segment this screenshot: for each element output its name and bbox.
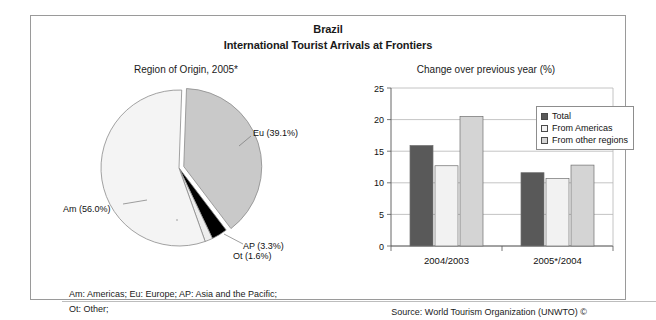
- pie-label-am: Am (56.0%): [63, 204, 111, 214]
- pie-label-ot: Ot (1.6%): [233, 251, 272, 261]
- source-note: Source: World Tourism Organization (UNWT…: [391, 307, 587, 317]
- pie-slices: [101, 89, 262, 246]
- ytick-label-10: 10: [374, 178, 384, 188]
- legend-label: Total: [552, 110, 571, 122]
- bar-from-other-regions-1: [571, 165, 594, 246]
- legend-item-total: Total: [541, 110, 628, 122]
- bar-from-americas-1: [546, 178, 569, 246]
- legend-swatch-icon: [541, 125, 548, 132]
- bar-chart-y-tick-labels: 0510152025: [374, 84, 384, 252]
- ytick-label-15: 15: [374, 147, 384, 157]
- figure-title: Brazil: [31, 23, 625, 35]
- footnote-abbreviations-line2: Ot: Other;: [69, 304, 109, 314]
- ytick-label-25: 25: [374, 84, 384, 94]
- pie-center-mark: [176, 219, 178, 221]
- legend-item-from-other-regions: From other regions: [541, 134, 628, 146]
- xtick-label-1: 2005*/2004: [533, 255, 582, 266]
- bar-total-1: [521, 173, 544, 246]
- pie-chart-svg: [61, 76, 321, 261]
- bar-chart-legend: TotalFrom AmericasFrom other regions: [536, 106, 634, 150]
- ytick-label-0: 0: [379, 242, 384, 252]
- bar-from-other-regions-0: [460, 116, 483, 246]
- pie-label-ap: AP (3.3%): [243, 241, 284, 251]
- footer-divider: [62, 301, 656, 302]
- pie-label-eu: Eu (39.1%): [253, 128, 298, 138]
- bar-from-americas-0: [435, 166, 458, 246]
- legend-label: From Americas: [552, 122, 613, 134]
- figure-subtitle: International Tourist Arrivals at Fronti…: [31, 39, 625, 51]
- pie-chart-subtitle: Region of Origin, 2005*: [71, 64, 301, 75]
- ytick-label-20: 20: [374, 115, 384, 125]
- bar-chart-subtitle: Change over previous year (%): [361, 64, 611, 75]
- bar-chart-x-tick-labels: 2004/20032005*/2004: [424, 255, 582, 266]
- xtick-label-0: 2004/2003: [424, 255, 469, 266]
- legend-label: From other regions: [552, 134, 628, 146]
- legend-item-from-americas: From Americas: [541, 122, 628, 134]
- pie-leader-ap: [224, 234, 243, 244]
- pie-chart: Eu (39.1%) Am (56.0%) AP (3.3%) Ot (1.6%…: [61, 76, 321, 261]
- footnote-abbreviations-line1: Am: Americas; Eu: Europe; AP: Asia and t…: [69, 289, 277, 299]
- legend-swatch-icon: [541, 113, 548, 120]
- bar-total-0: [410, 146, 433, 246]
- ytick-label-5: 5: [379, 210, 384, 220]
- legend-swatch-icon: [541, 137, 548, 144]
- figure-frame: Brazil International Tourist Arrivals at…: [30, 15, 626, 300]
